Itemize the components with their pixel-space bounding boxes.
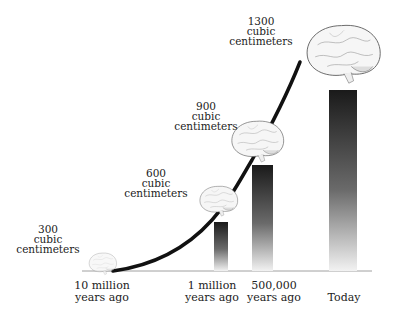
xlabel-line2: years ago [234,292,314,304]
label-unit-2: centimeters [8,244,88,254]
label-unit-2: centimeters [166,121,246,131]
label-300: 300 cubic centimeters [8,224,88,254]
xlabel-10-million: 10 million years ago [62,280,142,304]
label-900: 900 cubic centimeters [166,101,246,131]
label-unit-2: centimeters [221,36,301,46]
xlabel-500000: 500,000 years ago [234,280,314,304]
bar-500000 [252,165,273,271]
xlabel-line2: years ago [62,292,142,304]
brain-600 [200,186,238,216]
brain-1300 [307,25,380,83]
brain-evolution-diagram [0,0,400,322]
bar-today [329,90,357,271]
bar-1-million [214,222,228,271]
label-unit-2: centimeters [116,188,196,198]
xlabel-line2: Today [304,292,384,304]
label-600: 600 cubic centimeters [116,168,196,198]
label-1300: 1300 cubic centimeters [221,16,301,46]
xlabel-today: Today [304,280,384,304]
